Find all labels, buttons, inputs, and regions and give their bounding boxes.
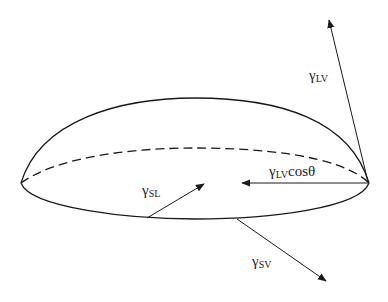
contact-line-back-dashed (21, 148, 369, 183)
gamma-lv-cos-label: γLVcosθ (268, 163, 315, 180)
gamma-sl-label: γSL (141, 182, 160, 199)
drop-dome-outline (21, 98, 369, 183)
drop-diagram: γLV γLVcosθ γSL γSV (0, 0, 388, 302)
gamma-lv-label: γLV (308, 67, 329, 84)
gamma-sv-arrow (237, 219, 326, 281)
contact-line-front (21, 183, 369, 219)
gamma-lv-arrow (329, 20, 368, 182)
gamma-sv-label: γSV (251, 253, 272, 270)
